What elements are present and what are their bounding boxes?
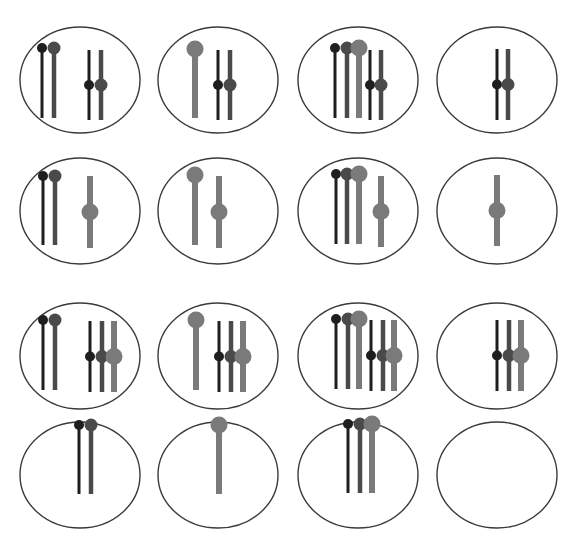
centromere-icon [49,314,62,327]
cell-r1c2 [158,27,278,133]
centromere-icon [37,43,47,53]
acrocentric-chromosome-dark [354,418,367,494]
metacentric-chromosome-light [235,321,252,392]
centromere-icon [343,419,353,429]
acrocentric-chromosome-dark [85,419,98,495]
centromere-icon [351,166,368,183]
acrocentric-chromosome-black [74,420,84,494]
centromere-icon [214,352,224,362]
metacentric-chromosome-black [366,320,376,391]
centromere-icon [351,311,368,328]
metacentric-chromosome-black [492,49,502,120]
centromere-icon [235,348,252,365]
centromere-icon [386,347,403,364]
acrocentric-chromosome-dark [341,42,354,119]
centromere-icon [213,80,223,90]
cell-r4c3 [298,416,418,529]
centromere-icon [366,351,376,361]
metacentric-chromosome-dark [224,50,237,120]
metacentric-chromosome-dark [375,50,388,120]
centromere-icon [82,204,99,221]
cell-r1c3 [298,27,418,133]
cell-r2c4 [437,158,557,264]
cell-membrane [20,27,140,133]
acrocentric-chromosome-light [188,312,205,391]
centromere-icon [375,79,388,92]
cell-r3c4 [437,303,557,409]
acrocentric-chromosome-black [331,314,341,389]
centromere-icon [48,42,61,55]
cell-r3c3 [298,303,418,409]
centromere-icon [502,78,515,91]
acrocentric-chromosome-light [364,416,381,494]
chromosome-diagram [0,0,575,542]
metacentric-chromosome-light [386,320,403,391]
metacentric-chromosome-light [82,176,99,248]
centromere-icon [49,170,62,183]
cell-r2c3 [298,158,418,264]
centromere-icon [187,167,204,184]
centromere-icon [489,202,506,219]
centromere-icon [364,416,381,433]
acrocentric-chromosome-black [38,315,48,390]
centromere-icon [365,80,375,90]
acrocentric-chromosome-light [351,40,368,119]
centromere-icon [331,314,341,324]
cell-r1c4 [437,27,557,133]
metacentric-chromosome-black [84,50,94,120]
centromere-icon [38,315,48,325]
acrocentric-chromosome-black [38,171,48,245]
centromere-icon [106,348,123,365]
centromere-icon [351,40,368,57]
cell-membrane [20,158,140,264]
centromere-icon [330,43,340,53]
centromere-icon [85,419,98,432]
cell-membrane [437,422,557,528]
metacentric-chromosome-light [489,175,506,246]
centromere-icon [74,420,84,430]
cell-r4c2 [158,417,278,529]
metacentric-chromosome-light [106,321,123,392]
acrocentric-chromosome-light [351,166,368,245]
centromere-icon [513,347,530,364]
metacentric-chromosome-black [365,50,375,120]
centromere-icon [492,351,502,361]
cell-r2c1 [20,158,140,264]
acrocentric-chromosome-black [37,43,47,118]
acrocentric-chromosome-dark [49,314,62,391]
acrocentric-chromosome-dark [48,42,61,119]
acrocentric-chromosome-light [187,41,204,119]
cell-r3c1 [20,303,140,409]
acrocentric-chromosome-black [330,43,340,118]
centromere-icon [211,204,228,221]
acrocentric-chromosome-black [343,419,353,493]
acrocentric-chromosome-dark [49,170,62,246]
cell-r4c4 [437,422,557,528]
centromere-icon [211,417,228,434]
centromere-icon [95,79,108,92]
metacentric-chromosome-light [373,176,390,247]
metacentric-chromosome-black [214,321,224,392]
metacentric-chromosome-black [85,321,95,392]
centromere-icon [224,79,237,92]
acrocentric-chromosome-light [211,417,228,495]
acrocentric-chromosome-black [331,169,341,244]
centromere-icon [331,169,341,179]
diagram-canvas [0,0,575,542]
acrocentric-chromosome-light [187,167,204,246]
centromere-icon [38,171,48,181]
acrocentric-chromosome-dark [341,168,354,245]
metacentric-chromosome-light [513,320,530,391]
centromere-icon [84,80,94,90]
metacentric-chromosome-black [492,320,502,391]
centromere-icon [188,312,205,329]
acrocentric-chromosome-light [351,311,368,390]
centromere-icon [492,80,502,90]
metacentric-chromosome-black [213,50,223,120]
centromere-icon [187,41,204,58]
centromere-icon [85,352,95,362]
metacentric-chromosome-dark [95,50,108,120]
cell-r3c2 [158,303,278,409]
metacentric-chromosome-light [211,176,228,248]
metacentric-chromosome-dark [502,49,515,120]
